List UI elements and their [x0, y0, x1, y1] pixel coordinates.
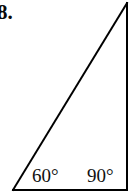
figure-container: 8. 60° 90°	[0, 0, 132, 193]
angle-label-90-degrees: 90°	[87, 166, 114, 186]
angle-label-60-degrees: 60°	[32, 166, 59, 186]
triangle-hypotenuse-edge	[13, 3, 127, 190]
